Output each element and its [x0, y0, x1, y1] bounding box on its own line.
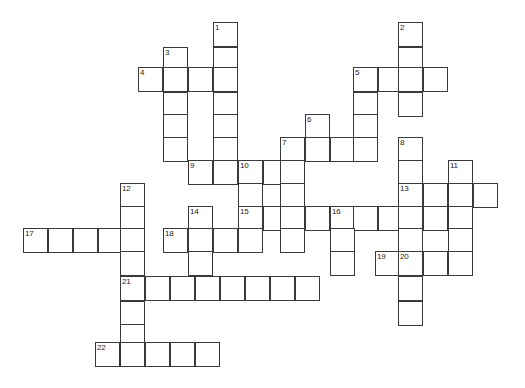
clue-number-8: 8: [400, 138, 404, 147]
clue-number-19: 19: [377, 252, 385, 261]
crossword-cell[interactable]: [270, 276, 295, 301]
crossword-cell-6[interactable]: 6: [305, 114, 330, 139]
crossword-cell[interactable]: [245, 276, 270, 301]
crossword-cell[interactable]: [213, 114, 238, 139]
crossword-cell[interactable]: [213, 67, 238, 92]
clue-number-16: 16: [332, 207, 340, 216]
crossword-cell[interactable]: [423, 67, 448, 92]
clue-number-1: 1: [215, 23, 219, 32]
crossword-cell[interactable]: [353, 114, 378, 139]
crossword-cell-21[interactable]: 21: [120, 276, 145, 301]
crossword-cell[interactable]: [398, 228, 423, 253]
crossword-cell[interactable]: [423, 251, 448, 276]
crossword-cell[interactable]: [163, 114, 188, 139]
clue-number-9: 9: [190, 161, 194, 170]
clue-number-22: 22: [97, 343, 105, 352]
crossword-cell[interactable]: [170, 276, 195, 301]
crossword-cell[interactable]: [330, 137, 355, 162]
crossword-cell[interactable]: [330, 228, 355, 253]
crossword-cell-12[interactable]: 12: [120, 183, 145, 208]
crossword-cell-9[interactable]: 9: [188, 160, 213, 185]
crossword-cell[interactable]: [120, 342, 145, 367]
crossword-cell-4[interactable]: 4: [138, 67, 163, 92]
clue-number-4: 4: [140, 68, 144, 77]
crossword-cell[interactable]: [330, 251, 355, 276]
crossword-cell[interactable]: [473, 183, 498, 208]
crossword-cell[interactable]: [423, 183, 448, 208]
clue-number-17: 17: [25, 229, 33, 238]
crossword-cell[interactable]: [213, 137, 238, 162]
crossword-cell-17[interactable]: 17: [23, 228, 48, 253]
crossword-cell[interactable]: [145, 342, 170, 367]
crossword-cell[interactable]: [163, 137, 188, 162]
crossword-cell[interactable]: [195, 276, 220, 301]
clue-number-18: 18: [165, 229, 173, 238]
clue-number-6: 6: [307, 115, 311, 124]
crossword-cell-22[interactable]: 22: [95, 342, 120, 367]
crossword-cell-7[interactable]: 7: [280, 137, 305, 162]
crossword-cell-8[interactable]: 8: [398, 137, 423, 162]
clue-number-7: 7: [282, 138, 286, 147]
crossword-cell[interactable]: [238, 183, 263, 208]
crossword-cell[interactable]: [163, 67, 188, 92]
crossword-cell-19[interactable]: 19: [375, 251, 400, 276]
crossword-cell[interactable]: [280, 160, 305, 185]
crossword-cell[interactable]: [398, 301, 423, 326]
crossword-cell[interactable]: [305, 137, 330, 162]
crossword-cell[interactable]: [220, 276, 245, 301]
crossword-cell-1[interactable]: 1: [213, 22, 238, 47]
crossword-cell[interactable]: [398, 160, 423, 185]
crossword-cell[interactable]: [423, 206, 448, 231]
crossword-cell[interactable]: [73, 228, 98, 253]
crossword-cell[interactable]: [213, 160, 238, 185]
clue-number-12: 12: [122, 184, 130, 193]
clue-number-11: 11: [450, 161, 458, 170]
crossword-cell[interactable]: [188, 251, 213, 276]
clue-number-2: 2: [400, 23, 404, 32]
crossword-cell[interactable]: [398, 276, 423, 301]
crossword-cell[interactable]: [120, 251, 145, 276]
clue-number-10: 10: [240, 161, 248, 170]
crossword-cell[interactable]: [145, 276, 170, 301]
crossword-cell[interactable]: [170, 342, 195, 367]
crossword-cell-5[interactable]: 5: [353, 67, 378, 92]
crossword-cell[interactable]: [448, 183, 473, 208]
crossword-cell[interactable]: [305, 206, 330, 231]
crossword-cell-10[interactable]: 10: [238, 160, 263, 185]
crossword-cell[interactable]: [448, 228, 473, 253]
crossword-cell[interactable]: [238, 228, 263, 253]
clue-number-3: 3: [165, 48, 169, 57]
crossword-grid[interactable]: 12345678910111213141516171819202122: [0, 0, 525, 388]
crossword-cell[interactable]: [398, 92, 423, 117]
crossword-cell[interactable]: [295, 276, 320, 301]
crossword-cell-2[interactable]: 2: [398, 22, 423, 47]
crossword-cell[interactable]: [353, 137, 378, 162]
clue-number-14: 14: [190, 207, 198, 216]
crossword-cell-20[interactable]: 20: [398, 251, 423, 276]
crossword-cell[interactable]: [188, 67, 213, 92]
clue-number-13: 13: [400, 184, 408, 193]
crossword-cell-11[interactable]: 11: [448, 160, 473, 185]
clue-number-15: 15: [240, 207, 248, 216]
clue-number-21: 21: [122, 277, 130, 286]
crossword-cell[interactable]: [120, 301, 145, 326]
clue-number-20: 20: [400, 252, 408, 261]
crossword-cell[interactable]: [398, 67, 423, 92]
crossword-cell[interactable]: [188, 228, 213, 253]
crossword-cell[interactable]: [48, 228, 73, 253]
crossword-cell[interactable]: [195, 342, 220, 367]
crossword-cell[interactable]: [120, 228, 145, 253]
crossword-cell[interactable]: [280, 183, 305, 208]
crossword-cell-18[interactable]: 18: [163, 228, 188, 253]
crossword-cell[interactable]: [353, 206, 378, 231]
crossword-cell[interactable]: [280, 228, 305, 253]
clue-number-5: 5: [355, 68, 359, 77]
crossword-cell-13[interactable]: 13: [398, 183, 423, 208]
crossword-cell[interactable]: [448, 251, 473, 276]
crossword-cell[interactable]: [213, 228, 238, 253]
